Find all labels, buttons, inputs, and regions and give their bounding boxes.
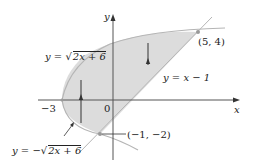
leader-lower-curve-arrow-icon xyxy=(70,122,74,127)
point-label-5-4: (5, 4) xyxy=(198,37,225,47)
point-5-4 xyxy=(196,30,200,34)
point-neg3-0 xyxy=(61,99,64,102)
y-axis-label: y xyxy=(104,12,110,22)
x-tick-neg3: −3 xyxy=(41,104,56,114)
point-label-neg1-neg2: (−1, −2) xyxy=(127,130,171,140)
origin-label: 0 xyxy=(104,104,110,114)
point-neg1-neg2 xyxy=(98,132,102,136)
diagram-canvas xyxy=(0,0,260,166)
x-axis-arrow-icon xyxy=(233,98,240,103)
x-axis-label: x xyxy=(234,105,240,115)
y-axis-arrow-icon xyxy=(111,14,116,21)
region-diagram: y x 0 −3 y = √2x + 6 y = −√2x + 6 y = x … xyxy=(0,0,260,166)
line-label: y = x − 1 xyxy=(163,73,210,83)
upper-curve-label: y = √2x + 6 xyxy=(45,51,106,62)
lower-curve-label: y = −√2x + 6 xyxy=(12,145,81,156)
